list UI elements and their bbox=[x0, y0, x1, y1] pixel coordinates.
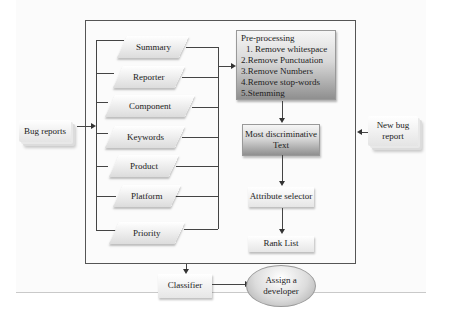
rank-list-box: Rank List bbox=[248, 236, 314, 252]
field-reporter: Reporter bbox=[113, 66, 185, 88]
new-bug-report-label: New bug report bbox=[373, 120, 413, 142]
assign-developer-node: Assign a developer bbox=[246, 265, 316, 307]
most-discriminative-label: Most discriminative Text bbox=[243, 129, 319, 152]
preprocessing-title: Pre-processing bbox=[241, 33, 331, 44]
connector bbox=[96, 166, 108, 167]
field-label: Component bbox=[129, 101, 171, 111]
attribute-selector-box: Attribute selector bbox=[248, 187, 314, 207]
new-bug-report-node: New bug report bbox=[368, 116, 418, 146]
connector bbox=[192, 107, 218, 108]
connector bbox=[176, 166, 218, 167]
preprocessing-step: 2.Remove Punctuation bbox=[241, 55, 331, 66]
connector bbox=[218, 66, 231, 67]
connector bbox=[182, 77, 218, 78]
arrow-left-icon bbox=[357, 129, 362, 135]
connector bbox=[186, 47, 218, 48]
rank-list-label: Rank List bbox=[263, 238, 298, 249]
connector bbox=[184, 229, 218, 230]
connector bbox=[282, 208, 283, 230]
bug-reports-node: Bug reports bbox=[19, 120, 71, 142]
bug-reports-label: Bug reports bbox=[24, 126, 66, 137]
connector bbox=[282, 155, 283, 182]
connector bbox=[96, 230, 116, 231]
field-label: Reporter bbox=[133, 72, 165, 82]
field-priority: Priority bbox=[109, 222, 185, 244]
connector bbox=[96, 73, 114, 74]
assign-developer-label: Assign a developer bbox=[256, 275, 306, 298]
connector bbox=[212, 284, 246, 285]
arrow-down-icon bbox=[279, 118, 285, 123]
connector bbox=[174, 196, 218, 197]
field-product: Product bbox=[109, 155, 179, 177]
field-keywords: Keywords bbox=[105, 126, 185, 148]
connector bbox=[182, 137, 218, 138]
connector bbox=[362, 132, 368, 133]
arrow-down-icon bbox=[279, 181, 285, 186]
connector bbox=[282, 101, 283, 119]
field-summary: Summary bbox=[117, 36, 189, 58]
connector bbox=[96, 40, 124, 41]
connector bbox=[96, 40, 97, 230]
field-label: Product bbox=[130, 161, 158, 171]
preprocessing-step: 1. Remove whitespace bbox=[241, 44, 331, 55]
connector bbox=[77, 126, 91, 127]
field-label: Summary bbox=[136, 42, 171, 52]
field-label: Priority bbox=[133, 228, 161, 238]
field-component: Component bbox=[105, 95, 195, 117]
preprocessing-box: Pre-processing 1. Remove whitespace 2.Re… bbox=[236, 30, 336, 100]
connector bbox=[96, 196, 116, 197]
preprocessing-step: 3.Remove Numbers bbox=[241, 66, 331, 77]
field-label: Keywords bbox=[127, 132, 164, 142]
field-label: Platform bbox=[131, 191, 163, 201]
classifier-label: Classifier bbox=[168, 280, 203, 291]
most-discriminative-text-box: Most discriminative Text bbox=[242, 124, 320, 156]
connector bbox=[96, 102, 108, 103]
connector bbox=[218, 47, 219, 229]
connector bbox=[96, 133, 108, 134]
preprocessing-step: 4.Remove stop-words bbox=[241, 77, 331, 88]
attribute-selector-label: Attribute selector bbox=[250, 191, 313, 202]
arrow-down-icon bbox=[279, 229, 285, 234]
preprocessing-step: 5.Stemming bbox=[241, 88, 331, 99]
field-platform: Platform bbox=[113, 185, 181, 207]
classifier-box: Classifier bbox=[158, 274, 212, 298]
